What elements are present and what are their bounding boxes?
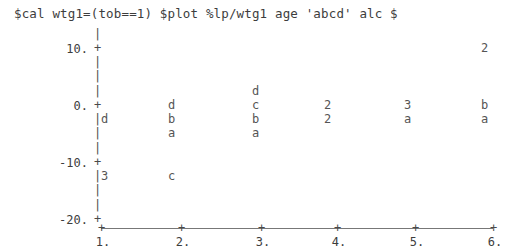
- x-axis-tick-label: 3.: [251, 236, 275, 248]
- y-axis-tick-mark: +: [94, 156, 101, 168]
- y-axis-tick-mark: +: [94, 99, 101, 111]
- x-axis-tick-mark: +: [490, 222, 497, 234]
- x-axis-rule: [101, 228, 493, 229]
- x-axis-tick-mark: +: [412, 222, 419, 234]
- plot-point-marker: d: [252, 85, 259, 97]
- terminal-plot-screen: $cal wtg1=(tob==1) $plot %lp/wtg1 age 'a…: [0, 0, 517, 250]
- plot-point-marker: d: [101, 113, 108, 125]
- plot-point-marker: 3: [404, 99, 411, 111]
- y-axis-vertical-glyph: |: [94, 127, 101, 139]
- plot-point-marker: c: [168, 170, 175, 182]
- plot-point-marker: b: [252, 113, 259, 125]
- plot-point-marker: 3: [101, 170, 108, 182]
- plot-point-marker: a: [404, 113, 411, 125]
- y-axis-vertical-glyph: |: [94, 56, 101, 68]
- plot-point-marker: b: [168, 113, 175, 125]
- plot-point-marker: 2: [324, 99, 331, 111]
- y-axis-vertical-glyph: |: [94, 199, 101, 211]
- command-echo-line: $cal wtg1=(tob==1) $plot %lp/wtg1 age 'a…: [14, 6, 398, 21]
- x-axis-tick-label: 2.: [171, 236, 195, 248]
- y-axis-vertical-glyph: |: [94, 28, 101, 40]
- x-axis-tick-mark: +: [334, 222, 341, 234]
- x-axis-tick-label: 5.: [405, 236, 429, 248]
- y-axis-vertical-glyph: |: [94, 184, 101, 196]
- x-axis-tick-mark: +: [258, 222, 265, 234]
- plot-point-marker: b: [481, 99, 488, 111]
- y-axis-vertical-glyph: |: [94, 70, 101, 82]
- y-axis-tick-mark: +: [94, 42, 101, 54]
- plot-point-marker: 2: [481, 42, 488, 54]
- plot-point-marker: c: [252, 99, 259, 111]
- y-axis-tick-label: 10.: [42, 42, 88, 56]
- x-axis-tick-label: 1.: [91, 236, 115, 248]
- y-axis-tick-label: 0.: [42, 99, 88, 113]
- y-axis-vertical-glyph: |: [94, 85, 101, 97]
- y-axis-tick-label: -10.: [42, 156, 88, 170]
- x-axis-tick-label: 4.: [327, 236, 351, 248]
- plot-point-marker: a: [168, 127, 175, 139]
- plot-point-marker: 2: [324, 113, 331, 125]
- x-axis-tick-mark: +: [98, 222, 105, 234]
- y-axis-tick-label: -20.: [42, 213, 88, 227]
- plot-point-marker: d: [168, 99, 175, 111]
- plot-point-marker: a: [481, 113, 488, 125]
- x-axis-tick-label: 6.: [483, 236, 507, 248]
- x-axis-tick-mark: +: [178, 222, 185, 234]
- plot-point-marker: a: [252, 127, 259, 139]
- y-axis-vertical-glyph: |: [94, 142, 101, 154]
